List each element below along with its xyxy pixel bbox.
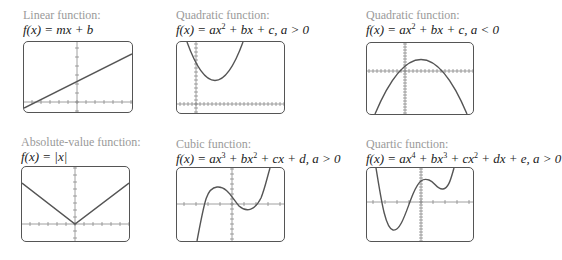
formula-absolute-value: f(x) = |x| <box>21 150 67 164</box>
panel-title-absolute-value: Absolute-value function: <box>21 136 141 149</box>
panel-title-quartic: Quartic function: <box>366 138 448 151</box>
graph-absolute-value-plot <box>22 167 129 241</box>
curve-quartic <box>376 168 454 230</box>
graph-quartic <box>366 167 474 242</box>
graph-quartic-plot <box>367 168 473 241</box>
formula-quadratic-positive: f(x) = ax2 + bx + c, a > 0 <box>176 23 309 37</box>
graph-cubic <box>176 167 285 242</box>
formula-quadratic-negative: f(x) = ax2 + bx + c, a < 0 <box>366 23 499 37</box>
graph-quadratic-negative <box>366 42 474 115</box>
curve-linear <box>24 54 132 108</box>
graph-absolute-value <box>21 166 130 242</box>
formula-cubic: f(x) = ax3 + bx2 + cx + d, a > 0 <box>176 152 341 166</box>
graph-quadratic-negative-plot <box>367 43 473 114</box>
panel-title-quadratic-negative: Quadratic function: <box>366 9 460 22</box>
graph-quadratic-positive-plot <box>177 42 284 113</box>
formula-quartic: f(x) = ax4 + bx3 + cx2 + dx + e, a > 0 <box>366 152 561 166</box>
panel-title-cubic: Cubic function: <box>176 138 251 151</box>
graph-linear <box>23 41 133 113</box>
graph-cubic-plot <box>177 168 284 241</box>
curve-quadratic-negative <box>375 60 467 115</box>
panel-title-linear: Linear function: <box>23 9 101 22</box>
formula-linear: f(x) = mx + b <box>23 23 93 37</box>
panel-title-quadratic-positive: Quadratic function: <box>176 9 270 22</box>
graph-quadratic-positive <box>176 41 285 114</box>
graph-linear-plot <box>24 42 132 112</box>
